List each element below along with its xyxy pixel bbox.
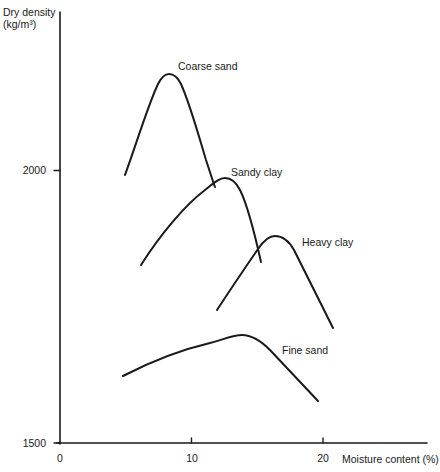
series-label-heavy-clay: Heavy clay [302, 236, 353, 248]
x-tick-label-0: 0 [45, 452, 75, 464]
series-label-coarse-sand: Coarse sand [178, 60, 238, 72]
x-tick-label-10: 10 [177, 452, 207, 464]
series-coarse-sand-line [125, 74, 215, 187]
x-tick-label-20: 20 [308, 452, 338, 464]
series-label-sandy-clay: Sandy clay [231, 166, 282, 178]
x-axis-label: Moisture content (%) [342, 453, 439, 465]
y-tick-label-2000: 2000 [0, 164, 46, 176]
chart-container: Dry density (kg/m³) 2000 1500 0 10 20 Mo… [0, 0, 440, 472]
series-label-fine-sand: Fine sand [282, 344, 328, 356]
series-sandy-clay-line [141, 178, 261, 265]
y-axis-label-line1: Dry density [3, 6, 56, 18]
y-tick-label-1500: 1500 [0, 437, 46, 449]
series-heavy-clay-line [217, 236, 333, 328]
y-axis-label: Dry density (kg/m³) [3, 6, 56, 30]
y-axis-label-line2: (kg/m³) [3, 18, 56, 30]
